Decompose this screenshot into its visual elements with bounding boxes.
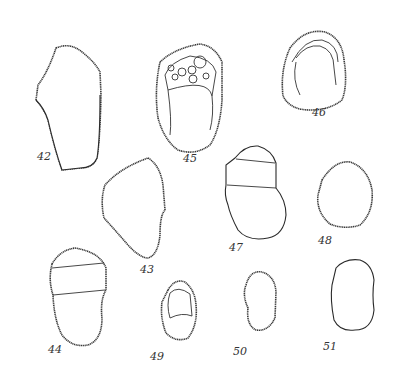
figure-label-46: 46 [312,106,326,119]
figure-48 [294,162,393,239]
figure-label-45: 45 [183,152,197,165]
figure-42 [20,38,117,170]
figure-label-44: 44 [48,343,62,356]
figure-51 [315,260,389,338]
figure-label-47: 47 [229,241,243,254]
figure-label-49: 49 [150,350,164,363]
figure-label-50: 50 [233,345,247,358]
figure-label-42: 42 [37,150,51,163]
figure-50 [229,272,291,347]
figure-label-43: 43 [140,263,154,276]
figure-45 [136,23,239,152]
figure-47 [202,125,293,239]
illustration-plate [0,0,406,370]
figure-label-51: 51 [323,340,337,353]
figure-label-48: 48 [318,234,332,247]
figure-43 [86,142,181,258]
figure-44 [31,227,122,346]
